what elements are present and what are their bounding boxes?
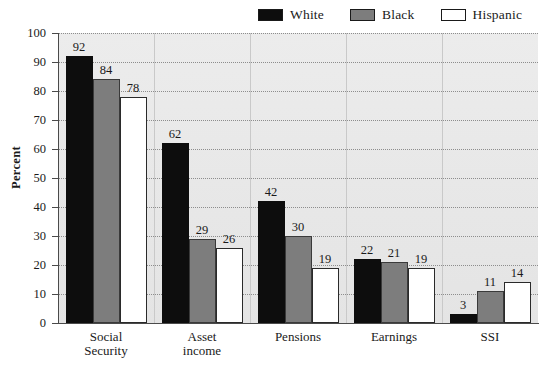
- legend-item-white: White: [258, 7, 324, 23]
- category-label-line: Earnings: [346, 330, 442, 344]
- y-axis-tick-label: 80: [0, 85, 46, 98]
- bar-white-pensions: [258, 201, 285, 323]
- bar-white-ssi: [450, 314, 477, 323]
- category-label-pensions: Pensions: [250, 330, 346, 344]
- y-axis-tick-label: 90: [0, 56, 46, 69]
- bar-black-pensions: [285, 236, 312, 323]
- category-label-line: Pensions: [250, 330, 346, 344]
- group-separator: [442, 33, 443, 323]
- bar-value-label: 62: [156, 128, 195, 141]
- gray-swatch-icon: [350, 9, 375, 21]
- category-label-social-security: SocialSecurity: [58, 330, 154, 358]
- bar-value-label: 92: [60, 41, 99, 54]
- bar-white-social-security: [66, 56, 93, 323]
- y-axis-tick-label: 30: [0, 230, 46, 243]
- bar-value-label: 42: [252, 186, 291, 199]
- bar-black-social-security: [93, 79, 120, 323]
- legend-item-hispanic: Hispanic: [441, 7, 523, 23]
- chart-legend: White Black Hispanic: [258, 6, 522, 24]
- y-axis-tick-label: 70: [0, 114, 46, 127]
- white-swatch-icon: [441, 9, 466, 21]
- bar-black-ssi: [477, 291, 504, 323]
- bar-hispanic-ssi: [504, 282, 531, 323]
- category-label-line: Social: [58, 330, 154, 344]
- x-axis-line: [58, 323, 539, 324]
- category-label-earnings: Earnings: [346, 330, 442, 344]
- y-axis-tick-label: 100: [0, 27, 46, 40]
- bar-value-label: 19: [306, 253, 345, 266]
- bar-hispanic-earnings: [408, 268, 435, 323]
- group-separator: [346, 33, 347, 323]
- y-axis-tick-label: 0: [0, 317, 46, 330]
- legend-label-hispanic: Hispanic: [473, 7, 523, 23]
- y-axis-line: [58, 33, 59, 324]
- legend-item-black: Black: [350, 7, 415, 23]
- bar-chart: White Black Hispanic 0102030405060708090…: [0, 0, 551, 368]
- bar-black-asset-income: [189, 239, 216, 323]
- group-separator: [250, 33, 251, 323]
- group-separator: [154, 33, 155, 323]
- gridline: [58, 62, 538, 63]
- bar-value-label: 78: [114, 82, 153, 95]
- gridline: [58, 33, 538, 34]
- bar-hispanic-social-security: [120, 97, 147, 323]
- bar-value-label: 84: [87, 64, 126, 77]
- category-label-line: Asset: [154, 330, 250, 344]
- category-label-line: Security: [58, 344, 154, 358]
- bar-hispanic-asset-income: [216, 248, 243, 323]
- y-axis-tick-label: 20: [0, 259, 46, 272]
- legend-label-black: Black: [382, 7, 415, 23]
- bar-black-earnings: [381, 262, 408, 323]
- y-axis-title: Percent: [9, 138, 24, 198]
- category-label-asset-income: Assetincome: [154, 330, 250, 358]
- y-axis-tick-label: 40: [0, 201, 46, 214]
- legend-label-white: White: [290, 7, 324, 23]
- y-axis-tick-label: 10: [0, 288, 46, 301]
- category-label-ssi: SSI: [442, 330, 538, 344]
- black-swatch-icon: [258, 9, 283, 21]
- bar-value-label: 26: [210, 233, 249, 246]
- bar-hispanic-pensions: [312, 268, 339, 323]
- category-label-line: SSI: [442, 330, 538, 344]
- category-label-line: income: [154, 344, 250, 358]
- bar-value-label: 30: [279, 221, 318, 234]
- bar-white-earnings: [354, 259, 381, 323]
- bar-value-label: 19: [402, 253, 441, 266]
- bar-value-label: 14: [498, 267, 537, 280]
